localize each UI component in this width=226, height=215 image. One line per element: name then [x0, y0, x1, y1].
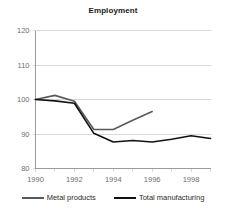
employment-chart: Employment 8090100110120 199019921994199…: [0, 0, 226, 215]
svg-text:90: 90: [21, 130, 29, 139]
svg-text:1996: 1996: [144, 175, 161, 184]
svg-text:1994: 1994: [105, 175, 122, 184]
data-series-group: [36, 95, 211, 142]
legend-item-total-manufacturing: Total manufacturing: [114, 194, 204, 202]
gridlines-group: [33, 31, 211, 169]
x-axis-tick-labels: 19901992199419961998: [27, 175, 199, 184]
svg-text:120: 120: [17, 26, 30, 35]
y-axis-tick-labels: 8090100110120: [17, 26, 30, 173]
svg-text:1998: 1998: [183, 175, 200, 184]
chart-legend: Metal products Total manufacturing: [0, 194, 226, 202]
chart-plot-area: 8090100110120 19901992199419961998: [0, 0, 226, 215]
legend-item-metal-products: Metal products: [22, 194, 96, 202]
legend-line-swatch-metal-products: [22, 197, 44, 199]
legend-line-swatch-total-manufacturing: [114, 197, 136, 199]
svg-text:1990: 1990: [27, 175, 44, 184]
legend-label-total-manufacturing: Total manufacturing: [139, 194, 204, 202]
svg-text:110: 110: [18, 61, 30, 70]
svg-text:100: 100: [17, 95, 30, 104]
svg-text:1992: 1992: [66, 175, 83, 184]
legend-label-metal-products: Metal products: [47, 194, 96, 202]
svg-text:80: 80: [21, 164, 29, 173]
